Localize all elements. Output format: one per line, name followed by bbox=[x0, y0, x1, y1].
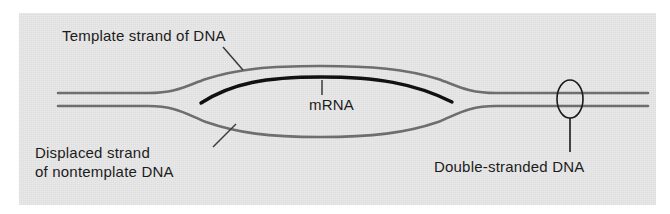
double-stranded-dna-marker-ellipse bbox=[557, 80, 583, 118]
label-template-strand: Template strand of DNA bbox=[62, 26, 226, 45]
figure-root: Template strand of DNA Displaced strando… bbox=[0, 0, 670, 214]
label-mrna: mRNA bbox=[309, 95, 354, 114]
label-double-stranded-dna: Double-stranded DNA bbox=[434, 157, 585, 176]
label-displaced-strand-line2: of nontemplate DNA bbox=[35, 163, 174, 180]
label-displaced-strand: Displaced strandof nontemplate DNA bbox=[35, 143, 174, 181]
label-displaced-strand-line1: Displaced strand bbox=[35, 144, 150, 161]
template-strand-leader-line bbox=[223, 47, 243, 70]
